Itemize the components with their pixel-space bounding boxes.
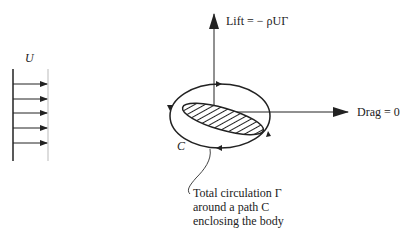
annotation-line-2: around a path C	[193, 200, 284, 214]
annotation-line-3: enclosing the body	[193, 214, 284, 228]
freestream-profile	[13, 69, 48, 161]
annotation-line-1: Total circulation Γ	[193, 186, 284, 200]
freestream-label: U	[25, 51, 34, 65]
lift-label: Lift = − ρUΓ	[226, 14, 288, 28]
annotation: Total circulation Γ around a path C encl…	[193, 186, 284, 228]
drag-label: Drag = 0	[357, 105, 400, 119]
body-shape	[180, 97, 267, 141]
contour-label: C	[177, 139, 185, 153]
